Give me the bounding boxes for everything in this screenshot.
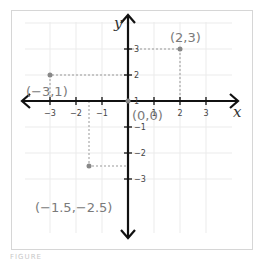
y-tick-1: 1 (134, 97, 139, 106)
svg-text:−3: −3 (134, 175, 146, 184)
tick-labels: −3 −2 −1 1 2 3 3 2 1 −1 −2 −3 (44, 45, 208, 184)
point-labels: (2,3) (−3,1) (0,0) (−1.5,−2.5) (26, 30, 201, 215)
svg-text:3: 3 (203, 109, 208, 118)
svg-text:−1: −1 (134, 123, 146, 132)
point-label-origin: (0,0) (132, 108, 163, 123)
figure-caption: FIGURE (10, 253, 42, 261)
coordinate-plane: −3 −2 −1 1 2 3 3 2 1 −1 −2 −3 1 y x (2,3… (0, 0, 268, 262)
point-label-2-3: (2,3) (170, 30, 201, 45)
point-label-neg1.5-neg2.5: (−1.5,−2.5) (35, 200, 112, 215)
svg-text:2: 2 (177, 109, 182, 118)
point-2-3 (178, 47, 183, 52)
svg-text:2: 2 (134, 71, 139, 80)
x-axis-label: x (233, 103, 242, 121)
svg-text:−1: −1 (96, 109, 108, 118)
svg-text:3: 3 (134, 45, 139, 54)
svg-text:−2: −2 (70, 109, 82, 118)
svg-text:−2: −2 (134, 149, 146, 158)
point-label-neg3-1: (−3,1) (26, 84, 68, 99)
point-neg3-1 (48, 73, 53, 78)
point-origin (126, 99, 131, 104)
point-neg1.5-neg2.5 (87, 164, 92, 169)
svg-text:−3: −3 (44, 109, 56, 118)
y-axis-label: y (113, 14, 123, 32)
